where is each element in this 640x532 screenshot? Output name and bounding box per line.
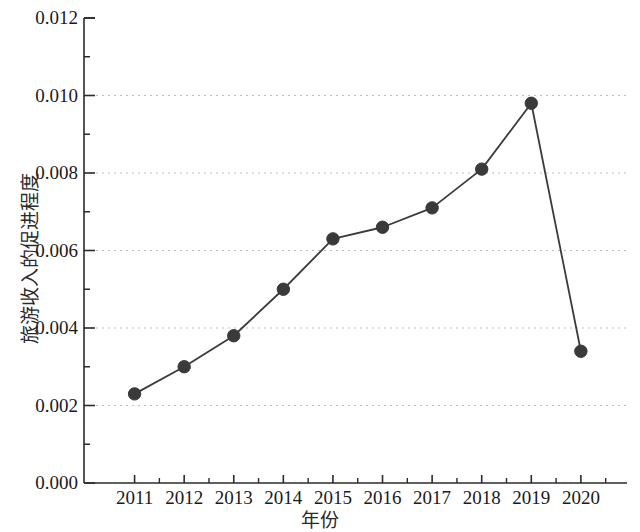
data-point bbox=[575, 345, 587, 357]
gridlines bbox=[84, 96, 627, 406]
data-point bbox=[228, 330, 240, 342]
x-tick-marks bbox=[135, 475, 606, 483]
data-point bbox=[128, 388, 140, 400]
data-point bbox=[178, 361, 190, 373]
data-point bbox=[277, 283, 289, 295]
data-point bbox=[525, 97, 537, 109]
data-point bbox=[376, 221, 388, 233]
series-markers bbox=[128, 97, 587, 400]
major-tick-marks bbox=[84, 18, 95, 483]
data-point bbox=[327, 233, 339, 245]
data-point bbox=[426, 202, 438, 214]
x-axis-title: 年份 bbox=[0, 505, 640, 532]
data-point bbox=[476, 163, 488, 175]
series-line bbox=[135, 103, 581, 394]
